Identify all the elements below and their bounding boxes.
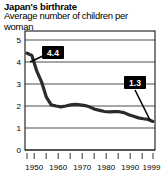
y-tick-label: 4 [17,58,22,67]
chart-figure: Japan's birthrate Average number of chil… [0,0,161,187]
chart-plot-area: 5 4 3 2 1 0 [0,28,161,187]
y-tick-label: 0 [17,146,22,155]
y-tick-label: 1 [17,124,22,133]
x-tick-label: 1960 [49,163,67,172]
x-axis-ticks [27,153,153,159]
callout-end-label: 1.3 [129,78,141,88]
y-tick-label: 3 [17,80,22,89]
y-tick-label: 5 [17,36,22,45]
x-tick-label: 1970 [73,163,91,172]
x-axis-labels: 1950 1960 1970 1980 1990 1999 [25,163,161,172]
x-tick-label: 1990 [121,163,139,172]
y-tick-label: 2 [17,102,22,111]
callout-start-label: 4.4 [47,48,59,58]
birthrate-line-chart: 5 4 3 2 1 0 [0,28,161,187]
x-tick-label: 1999 [143,163,161,172]
y-axis-labels: 5 4 3 2 1 0 [17,36,22,155]
x-tick-label: 1950 [25,163,43,172]
x-tick-label: 1980 [97,163,115,172]
